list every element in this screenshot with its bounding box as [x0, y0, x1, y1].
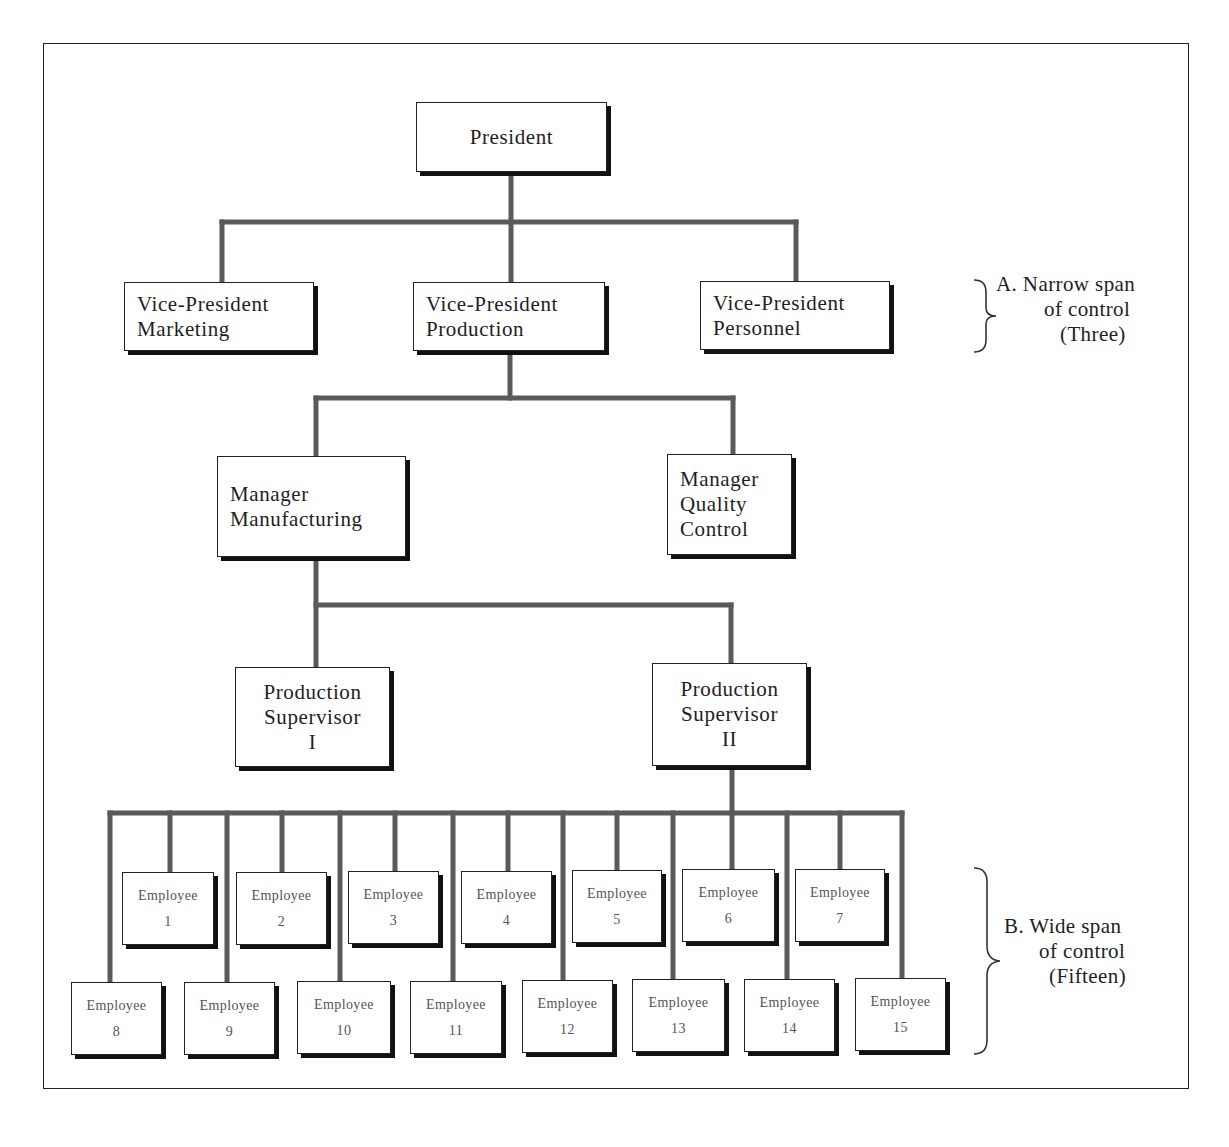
employee-number: 5	[613, 907, 620, 933]
node-label: Manager	[680, 467, 759, 492]
employee-number: 12	[560, 1017, 575, 1043]
node-label: II	[722, 727, 737, 752]
employee-number: 9	[226, 1019, 233, 1045]
node-employee-4: Employee4	[461, 871, 552, 944]
node-employee-11: Employee11	[410, 981, 502, 1054]
node-vp-marketing: Vice-President Marketing	[124, 282, 314, 351]
node-label: Personnel	[713, 316, 801, 341]
node-vp-production: Vice-President Production	[413, 282, 605, 351]
node-production-supervisor-2: Production Supervisor II	[652, 663, 807, 766]
brace-wide-icon	[970, 866, 1004, 1056]
node-manager-quality-control: Manager Quality Control	[667, 454, 792, 555]
node-employee-15: Employee15	[855, 978, 946, 1051]
node-employee-3: Employee3	[348, 871, 439, 944]
employee-label: Employee	[477, 882, 537, 908]
node-label: I	[309, 730, 317, 755]
node-label: President	[470, 125, 554, 150]
employee-number: 15	[893, 1015, 908, 1041]
employee-label: Employee	[200, 993, 260, 1019]
employee-number: 3	[390, 908, 397, 934]
employee-number: 10	[337, 1018, 352, 1044]
node-label: Supervisor	[681, 702, 778, 727]
node-label: Production	[680, 677, 778, 702]
annotation-line: (Fifteen)	[1004, 964, 1189, 989]
employee-label: Employee	[649, 990, 709, 1016]
node-label: Manufacturing	[230, 507, 363, 532]
node-manager-manufacturing: Manager Manufacturing	[217, 456, 406, 557]
node-label: Vice-President	[137, 292, 269, 317]
node-label: Supervisor	[264, 705, 361, 730]
node-label: Vice-President	[713, 291, 845, 316]
annotation-line: of control	[1004, 939, 1189, 964]
annotation-narrow-span: A. Narrow span of control (Three)	[996, 272, 1186, 347]
employee-number: 8	[113, 1019, 120, 1045]
node-label: Production	[426, 317, 524, 342]
node-label: Manager	[230, 482, 309, 507]
employee-number: 6	[725, 906, 732, 932]
node-employee-1: Employee1	[122, 872, 214, 945]
employee-label: Employee	[699, 880, 759, 906]
node-employee-8: Employee8	[71, 982, 162, 1055]
employee-label: Employee	[810, 880, 870, 906]
node-label: Quality	[680, 492, 747, 517]
employee-label: Employee	[760, 990, 820, 1016]
node-employee-10: Employee10	[297, 981, 391, 1054]
employee-label: Employee	[314, 992, 374, 1018]
annotation-line: B. Wide span	[1004, 914, 1189, 939]
annotation-wide-span: B. Wide span of control (Fifteen)	[1004, 914, 1189, 989]
employee-number: 11	[449, 1018, 463, 1044]
employee-number: 13	[671, 1016, 686, 1042]
node-employee-9: Employee9	[184, 982, 275, 1055]
node-vp-personnel: Vice-President Personnel	[700, 281, 890, 350]
annotation-line: of control	[996, 297, 1186, 322]
employee-label: Employee	[364, 882, 424, 908]
node-employee-6: Employee6	[682, 869, 775, 942]
node-employee-5: Employee5	[572, 870, 662, 943]
node-employee-13: Employee13	[632, 979, 725, 1052]
node-production-supervisor-1: Production Supervisor I	[235, 667, 390, 767]
employee-number: 14	[782, 1016, 797, 1042]
node-employee-12: Employee12	[522, 980, 613, 1053]
node-president: President	[416, 102, 607, 172]
employee-label: Employee	[871, 989, 931, 1015]
node-label: Control	[680, 517, 748, 542]
node-label: Production	[263, 680, 361, 705]
employee-number: 1	[164, 909, 171, 935]
employee-label: Employee	[426, 992, 486, 1018]
employee-number: 2	[278, 909, 285, 935]
employee-label: Employee	[138, 883, 198, 909]
employee-label: Employee	[87, 993, 147, 1019]
node-label: Vice-President	[426, 292, 558, 317]
employee-label: Employee	[587, 881, 647, 907]
node-employee-7: Employee7	[795, 869, 885, 942]
employee-label: Employee	[252, 883, 312, 909]
node-employee-14: Employee14	[744, 979, 835, 1052]
employee-number: 4	[503, 908, 510, 934]
annotation-line: A. Narrow span	[996, 272, 1186, 297]
node-employee-2: Employee2	[236, 872, 327, 945]
employee-label: Employee	[538, 991, 598, 1017]
annotation-line: (Three)	[996, 322, 1186, 347]
node-label: Marketing	[137, 317, 230, 342]
employee-number: 7	[836, 906, 843, 932]
